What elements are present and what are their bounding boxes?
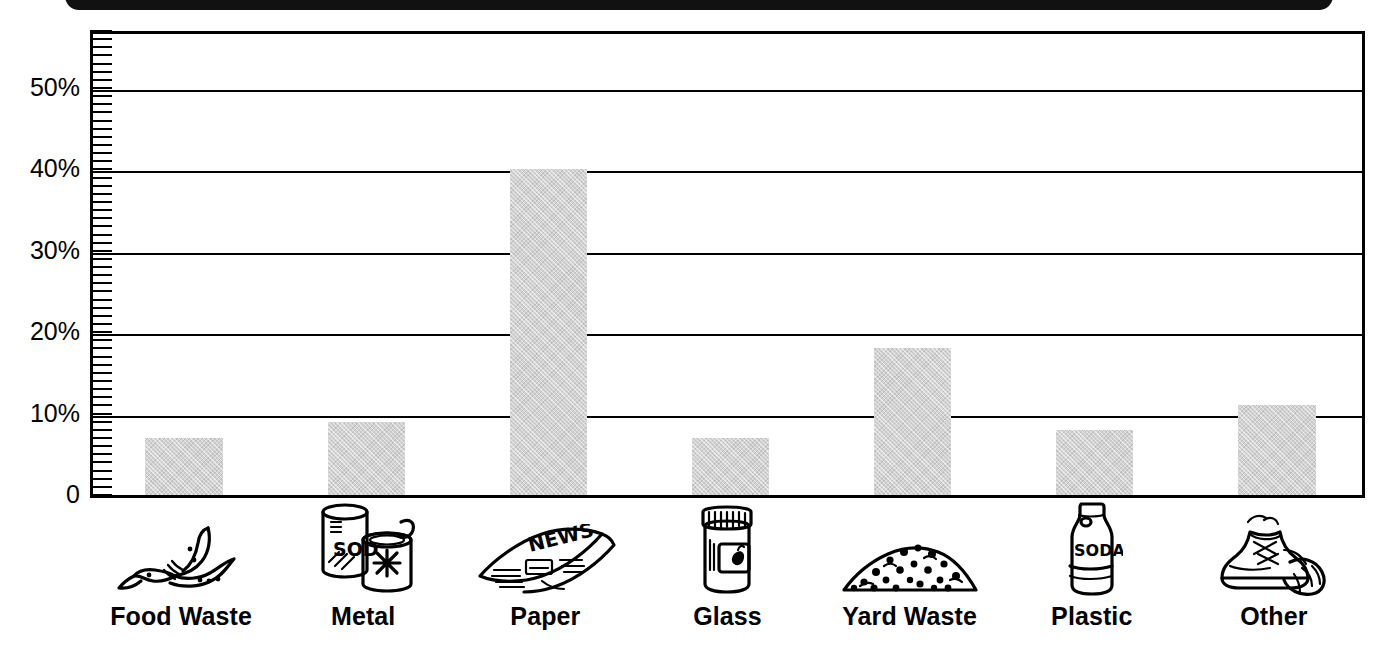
category-label-plastic: Plastic [1001,602,1183,631]
minor-tick [90,46,112,48]
y-axis-minor-ticks [90,31,114,498]
minor-tick [90,95,112,97]
category-plastic: SODA Plastic [1001,502,1183,657]
category-metal: SOD Metal [272,502,454,657]
category-label-food-waste: Food Waste [90,602,272,631]
minor-tick [90,128,112,130]
grass-clippings-pile-icon [819,510,1001,596]
minor-tick [90,103,112,105]
minor-tick [90,461,112,463]
x-axis-categories: Food Waste SOD Metal NEWS Paper [90,502,1365,661]
minor-tick [90,177,112,179]
gridline-40 [93,171,1362,173]
minor-tick [90,356,112,358]
minor-tick [90,396,112,398]
bar-plastic [1056,430,1133,495]
minor-tick [90,71,112,73]
y-tick-label-50: 50% [2,75,80,100]
minor-tick [90,494,112,496]
minor-tick [90,38,112,40]
y-tick-label-0: 0 [2,482,80,507]
minor-tick [90,421,112,423]
glass-jam-jar-icon [636,510,818,596]
minor-tick [90,144,112,146]
folded-newspaper-icon: NEWS [454,510,636,596]
bar-yard-waste [874,348,951,495]
minor-tick [90,234,112,236]
minor-tick [90,290,112,292]
minor-tick [90,87,112,89]
minor-tick [90,437,112,439]
minor-tick [90,274,112,276]
minor-tick [90,282,112,284]
minor-tick [90,429,112,431]
category-yard-waste: Yard Waste [819,502,1001,657]
svg-text:SODA: SODA [1074,541,1123,560]
category-label-glass: Glass [636,602,818,631]
old-sneakers-icon [1183,510,1365,596]
minor-tick [90,160,112,162]
minor-tick [90,201,112,203]
minor-tick [90,413,112,415]
minor-tick [90,217,112,219]
minor-tick [90,111,112,113]
minor-tick [90,404,112,406]
bar-paper [510,169,587,495]
minor-tick [90,364,112,366]
minor-tick [90,168,112,170]
category-paper: NEWS Paper [454,502,636,657]
minor-tick [90,152,112,154]
minor-tick [90,258,112,260]
category-label-paper: Paper [454,602,636,631]
minor-tick [90,315,112,317]
minor-tick [90,225,112,227]
y-tick-label-10: 10% [2,401,80,426]
category-other: Other [1183,502,1365,657]
minor-tick [90,307,112,309]
gridline-20 [93,334,1362,336]
category-label-yard-waste: Yard Waste [819,602,1001,631]
chart-plot-area [90,31,1365,498]
bar-metal [328,422,405,495]
minor-tick [90,478,112,480]
category-glass: Glass [636,502,818,657]
minor-tick [90,486,112,488]
minor-tick [90,30,112,32]
category-label-other: Other [1183,602,1365,631]
minor-tick [90,193,112,195]
minor-tick [90,323,112,325]
minor-tick [90,331,112,333]
banana-peel-icon [90,510,272,596]
category-label-metal: Metal [272,602,454,631]
bar-food-waste [145,438,222,495]
minor-tick [90,266,112,268]
minor-tick [90,380,112,382]
minor-tick [90,372,112,374]
y-tick-label-40: 40% [2,156,80,181]
minor-tick [90,347,112,349]
gridline-10 [93,416,1362,418]
minor-tick [90,63,112,65]
y-axis-labels: 010%20%30%40%50% [0,0,80,661]
minor-tick [90,453,112,455]
top-decorative-band [65,0,1333,10]
bar-glass [692,438,769,495]
y-tick-label-30: 30% [2,238,80,263]
category-food-waste: Food Waste [90,502,272,657]
minor-tick [90,120,112,122]
minor-tick [90,445,112,447]
minor-tick [90,250,112,252]
gridline-30 [93,253,1362,255]
y-tick-label-20: 20% [2,319,80,344]
minor-tick [90,388,112,390]
plastic-soda-bottle-icon: SODA [1001,510,1183,596]
minor-tick [90,299,112,301]
soda-can-and-tin-can-icon: SOD [272,510,454,596]
minor-tick [90,209,112,211]
minor-tick [90,136,112,138]
minor-tick [90,79,112,81]
minor-tick [90,339,112,341]
minor-tick [90,54,112,56]
gridline-50 [93,90,1362,92]
minor-tick [90,185,112,187]
